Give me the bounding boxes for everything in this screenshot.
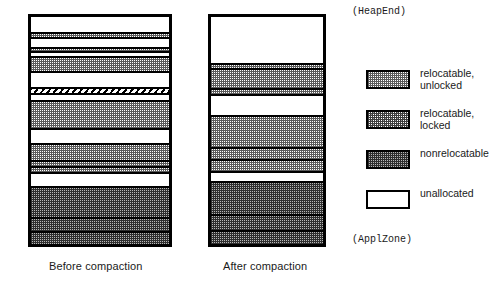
heap-band-nonrelocatable xyxy=(211,231,323,244)
heap-band-unlocked xyxy=(31,57,169,71)
figure-canvas: Before compaction After compaction (Heap… xyxy=(0,0,493,286)
legend-item-nonrelocatable: nonrelocatable xyxy=(366,146,493,186)
caption-after-compaction: After compaction xyxy=(223,260,307,272)
heap-band-unallocated xyxy=(31,94,169,101)
heap-band-unallocated xyxy=(211,17,323,64)
legend-swatch-unlocked xyxy=(366,70,410,89)
heap-band-unlocked xyxy=(211,69,323,88)
heap-band-nonrelocatable xyxy=(31,187,169,218)
heap-band-unlocked xyxy=(31,101,169,128)
heap-band-unallocated xyxy=(31,173,169,187)
heap-column-after-compaction xyxy=(208,14,326,247)
heap-band-unallocated xyxy=(211,172,323,182)
heap-band-nonrelocatable xyxy=(31,218,169,232)
legend: relocatable, unlockedrelocatable, locked… xyxy=(366,66,493,226)
heap-band-unlocked xyxy=(31,144,169,162)
legend-item-locked: relocatable, locked xyxy=(366,106,493,146)
heap-band-unlocked xyxy=(211,148,323,160)
heap-band-unallocated xyxy=(211,95,323,116)
heap-band-nonrelocatable xyxy=(211,215,323,230)
legend-item-unlocked: relocatable, unlocked xyxy=(366,66,493,106)
heap-band-nonrelocatable xyxy=(31,232,169,244)
heap-band-unlocked xyxy=(211,89,323,96)
legend-swatch-locked xyxy=(366,110,410,129)
heap-column-before-compaction xyxy=(28,14,172,247)
legend-swatch-unallocated xyxy=(366,190,410,209)
legend-item-unallocated: unallocated xyxy=(366,186,493,226)
legend-label-unlocked: relocatable, unlocked xyxy=(420,67,474,91)
heap-band-unallocated xyxy=(31,38,169,48)
heap-band-unallocated xyxy=(31,72,169,89)
heap-band-unallocated xyxy=(31,17,169,33)
heap-band-unallocated xyxy=(31,129,169,144)
heap-end-label: (HeapEnd) xyxy=(352,6,406,17)
caption-before-compaction: Before compaction xyxy=(49,260,142,272)
heap-band-nonrelocatable xyxy=(211,182,323,215)
heap-band-unlocked xyxy=(211,160,323,171)
legend-label-nonrelocatable: nonrelocatable xyxy=(420,147,489,159)
legend-label-locked: relocatable, locked xyxy=(420,107,474,131)
heap-band-unlocked xyxy=(211,116,323,147)
appl-zone-label: (ApplZone) xyxy=(352,234,412,245)
legend-label-unallocated: unallocated xyxy=(420,187,474,199)
legend-swatch-nonrelocatable xyxy=(366,150,410,169)
